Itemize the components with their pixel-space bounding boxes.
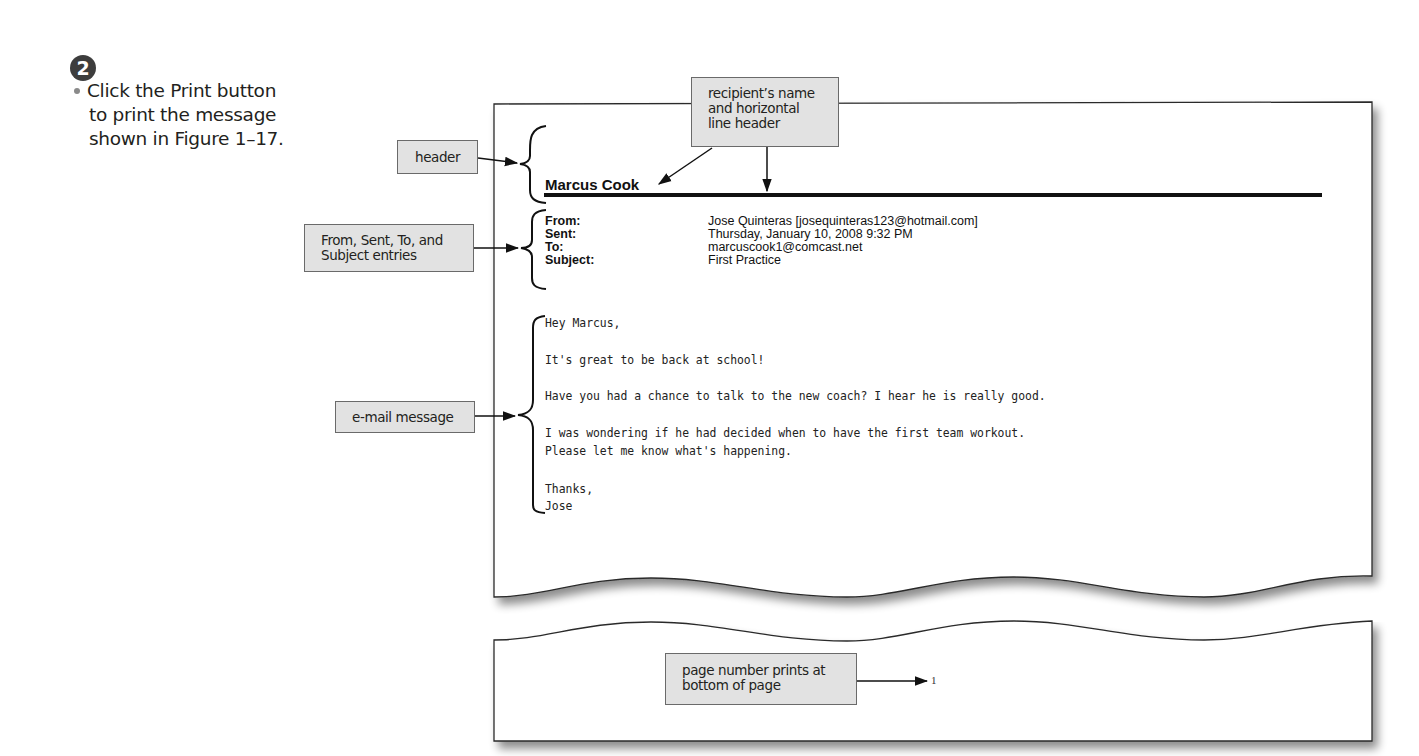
message-line: I was wondering if he had decided when t… — [545, 426, 1025, 440]
step-number-badge: 2 — [70, 55, 96, 81]
horizontal-line-header — [544, 193, 1322, 197]
message-line: It's great to be back at school! — [545, 353, 764, 367]
subject-value: First Practice — [708, 254, 781, 267]
recipient-name: Marcus Cook — [545, 176, 639, 193]
instruction-line-1: Click the Print button — [87, 80, 276, 101]
page-number: 1 — [931, 674, 937, 686]
bullet-icon — [74, 88, 80, 94]
callout-page-number: page number prints at bottom of page — [665, 653, 857, 705]
subject-label: Subject: — [545, 254, 594, 267]
message-line: Hey Marcus, — [545, 316, 620, 330]
callout-message: e-mail message — [335, 401, 475, 433]
instruction-line-2: to print the message — [72, 103, 312, 127]
message-line: Thanks, — [545, 482, 593, 496]
message-line: Have you had a chance to talk to the new… — [545, 389, 1046, 403]
callout-entries: From, Sent, To, and Subject entries — [304, 224, 474, 272]
step-instruction: Click the Print button to print the mess… — [72, 79, 312, 151]
callout-header: header — [397, 140, 478, 174]
instruction-line-3: shown in Figure 1–17. — [72, 127, 312, 151]
message-line: Jose — [545, 499, 572, 513]
message-line: Please let me know what's happening. — [545, 444, 792, 458]
callout-recipient: recipient’s name and horizontal line hea… — [691, 77, 839, 147]
